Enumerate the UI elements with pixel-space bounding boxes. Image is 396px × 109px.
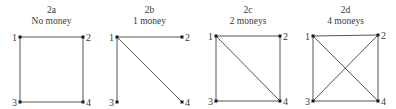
node-dot (377, 34, 380, 37)
node-label: 1 (208, 31, 213, 42)
panel-2a: 2aNo money1234 (12, 5, 91, 108)
node-label: 3 (208, 96, 213, 107)
node-label: 2 (86, 32, 91, 43)
panel-subtitle: 4 moneys (327, 16, 364, 26)
edge-1-2 (313, 35, 378, 36)
panel-title: 2c (244, 5, 253, 15)
network-diagrams: 2aNo money12342b1 money12342c2 moneys123… (0, 0, 396, 109)
panel-subtitle: 1 money (133, 16, 166, 26)
node-dot (19, 36, 22, 39)
node-dot (116, 36, 119, 39)
node-label: 2 (283, 31, 288, 42)
edge-1-4 (117, 37, 182, 102)
node-label: 3 (305, 96, 310, 107)
node-dot (377, 100, 380, 103)
panel-title: 2d (341, 5, 351, 15)
node-label: 2 (381, 30, 386, 41)
node-dot (215, 35, 218, 38)
panel-subtitle: No money (32, 16, 72, 26)
node-dot (312, 35, 315, 38)
node-label: 4 (86, 97, 91, 108)
node-dot (279, 100, 282, 103)
edge-1-4 (216, 36, 280, 101)
panel-2b: 2b1 money1234 (109, 5, 190, 108)
panel-title: 2a (47, 5, 57, 15)
node-label: 4 (283, 96, 288, 107)
panel-2c: 2c2 moneys1234 (208, 5, 288, 107)
node-dot (215, 100, 218, 103)
node-label: 2 (185, 32, 190, 43)
node-label: 3 (12, 97, 17, 108)
node-label: 1 (305, 31, 310, 42)
node-dot (116, 101, 119, 104)
node-label: 4 (185, 97, 190, 108)
node-dot (82, 101, 85, 104)
node-dot (82, 36, 85, 39)
node-dot (181, 101, 184, 104)
panel-2d: 2d4 moneys1234 (305, 5, 386, 107)
node-dot (181, 36, 184, 39)
node-dot (279, 35, 282, 38)
panel-subtitle: 2 moneys (230, 16, 267, 26)
node-label: 3 (109, 97, 114, 108)
panel-title: 2b (145, 5, 155, 15)
node-label: 4 (381, 96, 386, 107)
node-label: 1 (12, 32, 17, 43)
node-label: 1 (109, 32, 114, 43)
node-dot (312, 100, 315, 103)
node-dot (19, 101, 22, 104)
